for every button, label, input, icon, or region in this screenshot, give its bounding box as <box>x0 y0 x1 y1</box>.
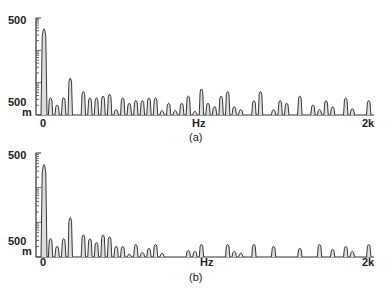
spectral-peak <box>94 243 98 257</box>
spectral-peak <box>298 96 302 115</box>
spectral-peak <box>127 254 131 257</box>
spectral-peak <box>121 98 125 115</box>
spectral-peak <box>140 101 144 115</box>
spectral-peak <box>160 253 164 257</box>
spectral-peak <box>140 252 144 257</box>
spectral-peak <box>107 237 111 257</box>
spectral-peak <box>101 235 105 257</box>
spectral-peak <box>68 78 72 115</box>
spectral-peak <box>193 111 197 115</box>
spectral-peak <box>101 96 105 115</box>
spectral-peak <box>94 98 98 115</box>
spectral-peak <box>88 98 92 115</box>
caption-b: (b) <box>189 271 202 283</box>
spectral-peak <box>311 105 315 115</box>
spectral-peak <box>48 239 52 257</box>
caption-a: (a) <box>189 131 202 143</box>
spectral-peak <box>258 92 262 115</box>
spectral-peak <box>166 103 170 115</box>
y-unit-b: m <box>22 245 32 257</box>
spectral-peak <box>107 94 111 115</box>
x-tick-end-b: 2k <box>362 256 374 268</box>
spectral-peak <box>127 103 131 115</box>
spectral-peak <box>147 98 151 115</box>
spectral-peak <box>324 101 328 115</box>
spectral-peak <box>212 107 216 115</box>
spectral-peak <box>88 239 92 257</box>
spectral-peak <box>278 101 282 115</box>
x-axis-label-b: Hz <box>200 256 213 268</box>
spectral-peak <box>81 92 85 115</box>
spectral-peak <box>252 244 256 257</box>
spectral-peak <box>271 110 275 115</box>
spectral-peak <box>225 92 229 115</box>
y-tick-top-b: 500 <box>8 149 26 161</box>
y-tick-top-a: 500 <box>8 14 26 26</box>
spectral-peak <box>180 103 184 115</box>
spectral-peak <box>153 98 157 115</box>
spectral-peak <box>147 248 151 257</box>
spectral-peak <box>232 251 236 257</box>
spectrum-panel-a: 500 500 m 0 Hz 2k (a) <box>0 0 388 145</box>
spectral-peak <box>367 101 371 115</box>
spectral-peak <box>134 244 138 257</box>
spectral-peak <box>225 244 229 257</box>
x-tick-end-a: 2k <box>362 117 374 129</box>
spectral-peak <box>239 110 243 115</box>
x-axis-label-a: Hz <box>192 117 205 129</box>
spectral-peak <box>330 249 334 257</box>
spectral-peak <box>61 98 65 115</box>
spectral-peak <box>344 246 348 257</box>
spectral-peak <box>350 109 354 115</box>
spectral-peak <box>186 96 190 115</box>
spectral-peak <box>199 89 203 115</box>
x-tick-start-a: 0 <box>40 117 46 129</box>
spectral-peak <box>121 246 125 257</box>
spectral-peak <box>55 105 59 115</box>
spectral-peak <box>219 96 223 115</box>
spectral-peak <box>239 253 243 257</box>
spectral-peak <box>134 101 138 115</box>
spectral-peak <box>298 248 302 257</box>
spectral-peak <box>317 110 321 115</box>
spectral-peak <box>193 251 197 257</box>
spectral-peak <box>285 103 289 115</box>
spectral-peak <box>153 244 157 257</box>
spectral-peak <box>232 107 236 115</box>
spectral-peak <box>330 107 334 115</box>
spectral-peak <box>61 239 65 257</box>
spectral-peak <box>114 246 118 257</box>
spectral-peak <box>271 246 275 257</box>
spectral-peak <box>41 165 47 257</box>
spectral-peak <box>114 110 118 115</box>
y-unit-a: m <box>22 106 32 118</box>
spectral-peak <box>186 250 190 257</box>
spectral-peak <box>68 218 72 257</box>
spectral-peak <box>350 251 354 257</box>
x-tick-start-b: 0 <box>40 256 46 268</box>
spectral-peak <box>317 244 321 257</box>
spectral-peak <box>344 98 348 115</box>
spectral-peak <box>252 101 256 115</box>
spectral-peak <box>81 235 85 257</box>
spectral-peak <box>206 103 210 115</box>
spectral-peak <box>55 246 59 257</box>
spectral-peak <box>48 98 52 115</box>
spectral-peak <box>160 110 164 115</box>
spectral-peak <box>173 110 177 115</box>
spectrum-panel-b: 500 500 m 0 Hz 2k (b) <box>0 145 388 299</box>
spectral-peak <box>41 29 47 115</box>
